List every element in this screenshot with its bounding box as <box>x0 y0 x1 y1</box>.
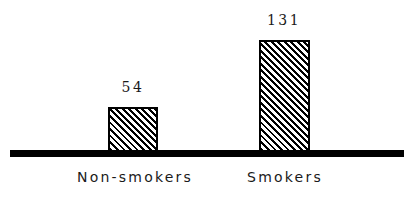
x-axis-label-non-smokers: Non-smokers <box>55 170 215 184</box>
x-axis-label-smokers: Smokers <box>214 170 356 184</box>
bar-smokers <box>259 40 310 152</box>
x-axis-baseline <box>10 150 404 157</box>
bar-non-smokers <box>108 107 158 152</box>
bar-value-label-non-smokers: 54 <box>98 80 168 94</box>
bar-chart: 54 131 Non-smokers Smokers <box>0 0 416 198</box>
bar-value-label-smokers: 131 <box>249 13 319 27</box>
